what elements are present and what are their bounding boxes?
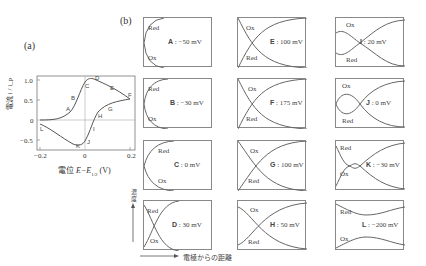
- xtick-02: 0.2: [127, 152, 136, 160]
- panel-label: I : 20 mV: [360, 38, 387, 46]
- ytick-1: 1.0: [24, 77, 33, 85]
- svg-text:B: B: [71, 95, 75, 101]
- species-bottom: Ox: [340, 235, 349, 243]
- panel-label: G : 100 mV: [270, 161, 304, 169]
- panel-F: Ox Red F : 175 mV: [237, 78, 306, 128]
- species-top: Red: [158, 147, 169, 155]
- xlabel-sub: 1/2: [91, 172, 97, 177]
- panel-J: Ox Red J : 0 mV: [335, 78, 404, 128]
- cv-xlabel: 電位 E−E1/2 (V): [58, 164, 111, 177]
- species-bottom: Red: [248, 238, 259, 246]
- cv-ylabel: 電流 i / i_p: [4, 78, 14, 110]
- species-top: Red: [148, 24, 159, 32]
- species-bottom: Ox: [340, 170, 349, 178]
- distance-arrow-icon: [140, 252, 180, 260]
- panel-label: E : 100 mV: [270, 38, 303, 46]
- svg-text:A: A: [66, 106, 70, 112]
- svg-text:H: H: [98, 113, 102, 119]
- svg-text:E: E: [110, 85, 114, 91]
- panel-label: C : 0 mV: [174, 161, 200, 169]
- svg-text:C: C: [85, 83, 90, 89]
- species-top: Ox: [246, 24, 255, 32]
- xlabel-unit: (V): [100, 166, 111, 175]
- panel-label: J : 0 mV: [366, 99, 391, 107]
- concentration-arrow-icon: [128, 202, 138, 242]
- distance-label: 電極からの距離: [183, 252, 232, 262]
- species-bottom: Red: [248, 177, 259, 185]
- panel-label: D : 30 mV: [172, 221, 202, 229]
- species-bottom: Red: [246, 115, 257, 123]
- species-bottom: Red: [346, 56, 357, 64]
- panel-L: Red Ox L : −200 mV: [335, 200, 404, 250]
- species-top: Red: [148, 85, 159, 93]
- species-top: Ox: [346, 21, 355, 29]
- panel-A: Red Ox A : −50 mV: [143, 17, 212, 67]
- svg-text:L: L: [40, 126, 44, 132]
- ytick-0: 0: [30, 117, 34, 125]
- species-bottom: Ox: [150, 237, 159, 245]
- svg-text:D: D: [95, 75, 100, 81]
- label-a: (a): [24, 40, 35, 51]
- xtick-0: 0: [83, 152, 87, 160]
- panel-E: Ox Red E : 100 mV: [237, 17, 306, 67]
- label-b: (b): [120, 15, 132, 26]
- panel-label: H : 50 mV: [270, 221, 300, 229]
- panel-label: L : −200 mV: [362, 221, 398, 229]
- xtick-neg02: −0.2: [34, 152, 47, 160]
- panel-label: F : 175 mV: [270, 99, 302, 107]
- species-top: Red: [340, 144, 351, 152]
- panel-label: B : −30 mV: [170, 99, 204, 107]
- species-bottom: Red: [246, 54, 257, 62]
- panel-label: A : −50 mV: [168, 38, 202, 46]
- species-top: Ox: [342, 82, 351, 90]
- svg-text:G: G: [108, 106, 113, 112]
- panel-I: Ox Red I : 20 mV: [335, 17, 404, 67]
- panel-H: Ox Red H : 50 mV: [237, 200, 306, 250]
- panel-K: Red Ox K : −30 mV: [335, 140, 404, 190]
- species-top: Red: [340, 208, 351, 216]
- panel-D: Red Ox D : 30 mV: [143, 200, 212, 250]
- species-bottom: Ox: [148, 115, 157, 123]
- svg-text:I: I: [93, 126, 95, 132]
- concentration-label: 濃度: [131, 188, 138, 202]
- panel-label: K : −30 mV: [366, 161, 400, 169]
- ytick-neg05: −0.5: [20, 137, 33, 145]
- species-top: Ox: [250, 206, 259, 214]
- species-bottom: Ox: [158, 177, 167, 185]
- species-top: Red: [147, 207, 158, 215]
- cv-plot-svg: ABC DEF GHI JKL: [0, 60, 140, 200]
- species-bottom: Red: [342, 117, 353, 125]
- panel-B: Red Ox B : −30 mV: [143, 78, 212, 128]
- ytick-05: 0.5: [24, 97, 33, 105]
- species-bottom: Ox: [148, 54, 157, 62]
- species-top: Ox: [248, 85, 257, 93]
- panel-G: Ox Red G : 100 mV: [237, 140, 306, 190]
- species-top: Ox: [250, 147, 259, 155]
- xlabel-prefix: 電位: [58, 166, 74, 175]
- cv-plot: ABC DEF GHI JKL 1.0 0.5 0 −0.5 −0.2 0 0.…: [0, 60, 140, 200]
- svg-text:K: K: [76, 143, 80, 149]
- svg-text:F: F: [128, 92, 132, 98]
- panel-C: Red Ox C : 0 mV: [143, 140, 212, 190]
- xlabel-var: E−E: [76, 166, 91, 175]
- svg-text:J: J: [87, 139, 90, 145]
